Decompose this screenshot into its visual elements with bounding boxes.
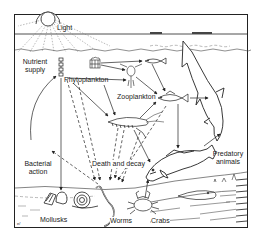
label-predatory-animals-line1: Predatory (210, 150, 246, 158)
label-crabs: Crabs (151, 217, 170, 225)
clam-icon (44, 192, 67, 205)
food-chain-arrows (31, 61, 220, 198)
fish-icon (158, 91, 188, 102)
label-death-and-decay: Death and decay (92, 160, 145, 168)
label-worms: Worms (110, 217, 132, 225)
label-zooplankton: Zooplankton (117, 93, 156, 101)
label-nutrient-supply-line2: supply (20, 66, 50, 74)
label-nutrient-supply-line1: Nutrient (20, 58, 50, 66)
marine-food-web-diagram: e/ (0, 0, 261, 241)
label-phytoplankton: Phytoplankton (64, 76, 108, 84)
corner-mark: e/ (17, 221, 21, 226)
label-predatory-animals-line2: animals (210, 158, 246, 166)
label-bacterial-action-line1: Bacterial (20, 160, 56, 168)
snail-icon (72, 192, 98, 208)
fish-icon (146, 145, 216, 181)
label-light: Light (57, 24, 72, 32)
copepod-icon (120, 64, 142, 88)
label-bacterial-action-line2: action (20, 168, 56, 176)
phytoplankton-icon (90, 57, 100, 68)
water-surface (15, 45, 251, 51)
label-mollusks: Mollusks (40, 216, 67, 224)
flatfish-icon (178, 191, 216, 200)
nutrient-column-icon (59, 58, 63, 76)
shark-icon (182, 41, 224, 141)
crab-icon (127, 191, 159, 214)
fish-icon (145, 58, 166, 64)
